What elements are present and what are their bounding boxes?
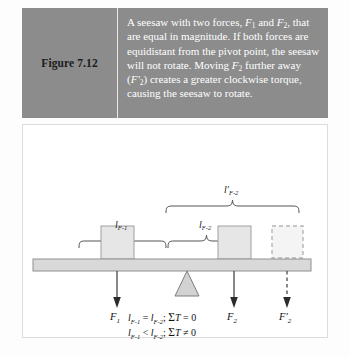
force-arrow-f2-prime-head bbox=[283, 297, 291, 308]
figure-caption-band: Figure 7.12 A seesaw with two forces, F1… bbox=[22, 8, 328, 118]
figure-container: Figure 7.12 A seesaw with two forces, F1… bbox=[0, 0, 350, 356]
force-label-f2-prime: F′2 bbox=[279, 311, 291, 322]
seesaw-beam bbox=[33, 259, 311, 271]
figure-caption-cell: A seesaw with two forces, F1 and F2, tha… bbox=[118, 8, 328, 118]
weight-block-f2-prime-dashed bbox=[272, 226, 303, 258]
force-arrow-f1-head bbox=[113, 297, 121, 308]
weight-block-f2 bbox=[218, 226, 251, 259]
diagram-panel: l′F-2 lF-1 lF-2 F1 F2 F′2 lF-1 = lF-2; Σ… bbox=[22, 124, 328, 338]
equation-unbalanced: lF-1 < lF-2; ΣT ≠ 0 bbox=[128, 326, 196, 338]
bracket-label-lever-arm-f1: lF-1 bbox=[115, 219, 127, 230]
seesaw-diagram-svg bbox=[23, 125, 329, 339]
pivot-triangle bbox=[175, 271, 199, 296]
bracket-label-lever-arm-f2-prime: l′F-2 bbox=[224, 184, 238, 195]
bracket-lever-arm-f2-prime bbox=[166, 200, 299, 213]
diagram-stage: l′F-2 lF-1 lF-2 F1 F2 F′2 lF-1 = lF-2; Σ… bbox=[23, 125, 327, 337]
force-arrow-f2-head bbox=[230, 297, 238, 308]
force-label-f1: F1 bbox=[110, 311, 120, 322]
figure-caption-text: A seesaw with two forces, F1 and F2, tha… bbox=[127, 15, 320, 101]
figure-label: Figure 7.12 bbox=[41, 57, 97, 69]
bracket-label-lever-arm-f2: lF-2 bbox=[199, 219, 211, 230]
figure-label-cell: Figure 7.12 bbox=[22, 8, 118, 118]
force-label-f2: F2 bbox=[227, 311, 237, 322]
equation-balanced: lF-1 = lF-2; ΣT = 0 bbox=[128, 311, 196, 323]
